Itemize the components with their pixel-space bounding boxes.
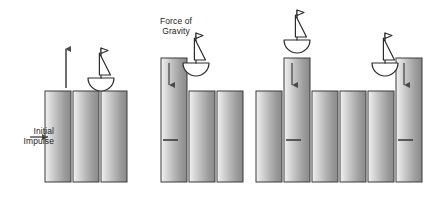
panel-4-last-column-rises-column-c-body [396, 58, 422, 182]
initial-impulse-label: Initial Impulse [6, 126, 54, 146]
panel-4-last-column-rises-boat [372, 33, 398, 76]
panel-3-middle-column-peak-column-a-body [256, 91, 282, 182]
panel-4-last-column-rises [340, 33, 422, 182]
force-of-gravity-label: Force of Gravity [141, 16, 211, 36]
panel-4-last-column-rises-column-a-body [340, 91, 366, 182]
panel-1-initial-impulse-column-c [101, 91, 127, 182]
panel-2-first-column-rises-boat [183, 33, 209, 76]
panels-layer [45, 10, 422, 182]
panel-2-first-column-rises-column-c-body [217, 91, 243, 182]
panel-2-first-column-rises [161, 33, 243, 182]
panel-2-first-column-rises-column-b [189, 91, 215, 182]
wave-diagram-svg [0, 0, 431, 200]
panel-2-first-column-rises-column-a [161, 58, 187, 182]
diagram-canvas: Force of Gravity Initial Impulse [0, 0, 431, 200]
panel-2-first-column-rises-column-b-body [189, 91, 215, 182]
panel-1-initial-impulse-column-c-body [101, 91, 127, 182]
panel-4-last-column-rises-column-b-body [368, 91, 394, 182]
panel-4-last-column-rises-column-c [396, 58, 422, 182]
panel-2-first-column-rises-column-a-body [161, 58, 187, 182]
panel-3-middle-column-peak-column-a [256, 91, 282, 182]
panel-1-initial-impulse [45, 48, 127, 182]
panel-3-middle-column-peak-column-c-body [312, 91, 338, 182]
panel-4-last-column-rises-column-a [340, 91, 366, 182]
panel-3-middle-column-peak-column-c [312, 91, 338, 182]
panel-4-last-column-rises-column-b [368, 91, 394, 182]
panel-3-middle-column-peak-column-b [284, 58, 310, 182]
panel-3-middle-column-peak-column-b-body [284, 58, 310, 182]
panel-1-initial-impulse-column-b [73, 91, 99, 182]
panel-3-middle-column-peak-boat [284, 10, 310, 53]
panel-3-middle-column-peak [256, 10, 338, 182]
panel-1-initial-impulse-boat [88, 48, 114, 91]
panel-1-initial-impulse-column-b-body [73, 91, 99, 182]
panel-2-first-column-rises-column-c [217, 91, 243, 182]
